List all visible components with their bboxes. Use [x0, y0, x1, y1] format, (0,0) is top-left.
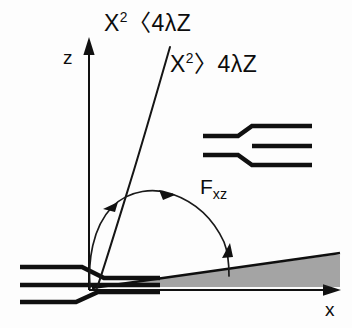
inset-line-bottom [203, 155, 312, 165]
figure-canvas: X2〈4λZ X2〉4λZ Fxz z x [0, 0, 352, 328]
inset-taper-detail [203, 126, 312, 165]
arc-arrowhead-apex [159, 190, 175, 200]
arc-right-branch [172, 194, 229, 276]
boundary-curve-parabola [97, 47, 170, 288]
arc-arrowhead-right [222, 243, 233, 258]
near-field-rhs: 4λZ [152, 10, 192, 36]
curved-double-arrow [90, 190, 233, 288]
near-field-relation: 〈 [128, 10, 152, 36]
force-symbol: F [200, 175, 213, 198]
far-field-exponent: 2 [186, 51, 194, 66]
waveguide-line-bottom [20, 292, 160, 302]
z-axis-label: z [63, 48, 73, 67]
far-field-condition-label: X2〉4λZ [170, 53, 257, 76]
force-label: Fxz [200, 176, 227, 197]
arc-arrowhead-left [103, 202, 118, 212]
diagram-svg [0, 0, 352, 328]
near-field-base: X [104, 10, 120, 36]
inset-line-top [203, 126, 312, 136]
near-field-exponent: 2 [120, 10, 128, 25]
force-subscript: xz [213, 186, 227, 202]
x-axis-label: x [325, 300, 335, 319]
far-field-relation: 〉 [194, 51, 218, 77]
z-axis-arrowhead [83, 37, 94, 55]
far-field-rhs: 4λZ [218, 51, 258, 77]
far-field-base: X [170, 51, 186, 77]
near-field-condition-label: X2〈4λZ [104, 12, 191, 35]
